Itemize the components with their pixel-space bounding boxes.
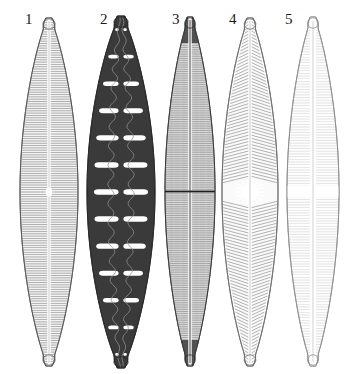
loculus bbox=[96, 135, 118, 140]
specimen-number-1: 1 bbox=[25, 12, 33, 27]
loculus bbox=[123, 216, 147, 222]
loculus bbox=[94, 189, 119, 195]
loculus bbox=[123, 353, 126, 356]
specimen-number-4: 4 bbox=[229, 12, 237, 27]
loculus bbox=[95, 162, 119, 168]
central-area bbox=[46, 187, 53, 196]
loculus bbox=[108, 325, 118, 329]
specimen-number-5: 5 bbox=[285, 12, 293, 27]
specimen-number-3: 3 bbox=[172, 12, 180, 27]
loculus bbox=[103, 81, 119, 85]
loculus bbox=[123, 28, 126, 31]
loculus bbox=[123, 135, 145, 140]
loculus bbox=[95, 216, 119, 222]
loculus bbox=[99, 108, 119, 113]
loculus bbox=[96, 243, 118, 248]
loculus bbox=[123, 189, 148, 195]
specimen-number-2: 2 bbox=[100, 12, 108, 27]
loculus bbox=[123, 271, 143, 276]
loculus bbox=[103, 298, 119, 302]
central-area bbox=[165, 191, 215, 193]
plate-canvas bbox=[0, 0, 345, 374]
loculus bbox=[123, 243, 145, 248]
diatom-plate: 12345 bbox=[0, 0, 345, 374]
loculus bbox=[123, 162, 147, 168]
